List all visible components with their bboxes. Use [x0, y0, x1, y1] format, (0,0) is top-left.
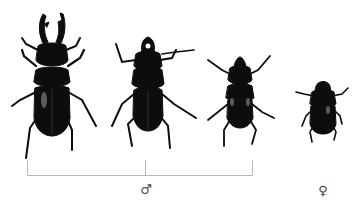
female-symbol: ♀	[318, 184, 328, 197]
beetle-male-major	[12, 13, 96, 158]
beetle-male-medium	[112, 37, 196, 148]
beetle-figure: ♂ ♀	[0, 0, 358, 200]
beetle-male-minor	[208, 56, 274, 146]
male-group-bracket	[28, 160, 253, 176]
male-symbol: ♂	[140, 183, 152, 196]
beetle-female	[296, 82, 348, 143]
specimen-illustration	[0, 0, 358, 200]
